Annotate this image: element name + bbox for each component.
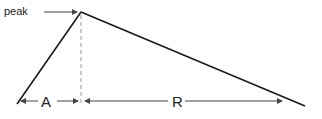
attack-label: A bbox=[39, 94, 53, 109]
peak-label: peak bbox=[4, 6, 28, 17]
release-line bbox=[81, 12, 305, 106]
release-label: R bbox=[170, 94, 185, 109]
attack-line bbox=[17, 12, 81, 104]
